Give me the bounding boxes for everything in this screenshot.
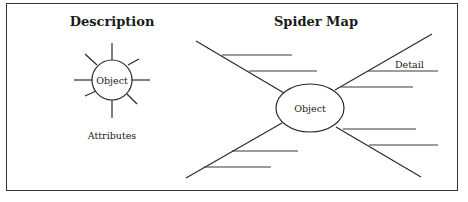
leg-lower-left [186,123,298,178]
description-object-label: Object [96,75,128,86]
spider-map-panel: Spider Map Detail Object [186,14,438,178]
leg-lower-right [336,127,438,177]
leg-line [196,41,284,93]
leg-upper-right: Detail [335,34,438,90]
spider-object-label: Object [294,103,326,114]
diagram-canvas: Description Object Attributes Spider Map [0,0,468,202]
ray-nw [85,54,97,65]
ray-se [127,94,137,104]
ray-ne [128,59,139,65]
spider-map-title: Spider Map [274,14,358,29]
description-panel: Description Object Attributes [70,14,155,141]
detail-label: Detail [395,59,424,70]
leg-line [336,127,421,177]
ray-sw [85,91,96,96]
description-title: Description [70,14,155,29]
attributes-caption: Attributes [87,130,137,141]
